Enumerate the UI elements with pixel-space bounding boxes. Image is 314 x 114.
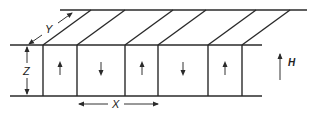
magnetization-arrows: [58, 61, 228, 76]
z-label: Z: [22, 65, 31, 77]
arrow-down-icon: [99, 62, 104, 76]
field-h: H: [280, 54, 296, 80]
domain-diagram: Y Z X H: [0, 0, 314, 114]
arrow-up-icon: [58, 61, 63, 75]
h-label: H: [288, 57, 296, 68]
x-dimension: X: [79, 98, 158, 110]
arrow-up-icon: [140, 61, 145, 75]
arrow-down-icon: [181, 62, 186, 76]
x-label: X: [111, 98, 120, 110]
arrow-up-icon: [223, 61, 228, 75]
y-label: Y: [45, 23, 53, 35]
domain-walls: [43, 10, 290, 96]
z-dimension: Z: [22, 47, 31, 94]
